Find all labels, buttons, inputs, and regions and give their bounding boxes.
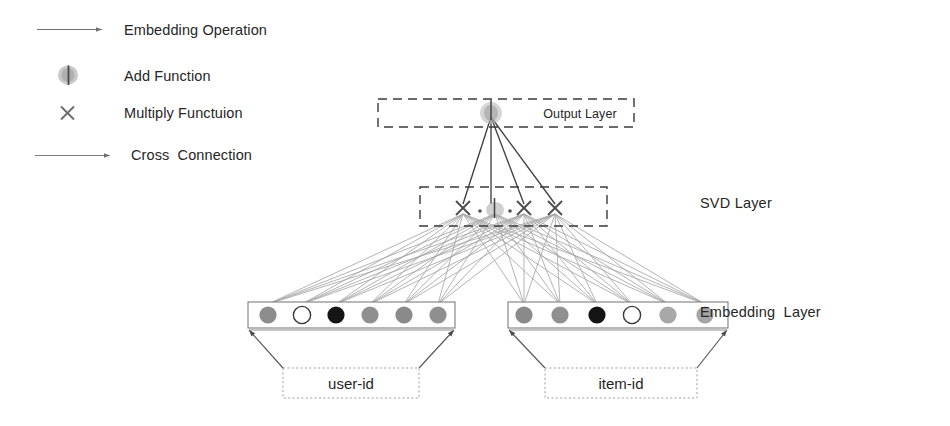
item-id-label: item-id	[598, 375, 643, 392]
user-embedding-box	[248, 302, 455, 328]
user-id-label: user-id	[328, 375, 374, 392]
legend-label-embedding-operation: Embedding Operation	[124, 22, 267, 38]
output-layer-label: Output Layer	[543, 107, 616, 121]
item-embedding-box	[508, 302, 728, 328]
svd-node-add	[486, 198, 504, 218]
embedding-circle	[361, 306, 378, 323]
embedding-group-item: item-id	[508, 302, 728, 398]
embedding-circle	[551, 306, 568, 323]
embedding-circle	[623, 306, 640, 323]
svd-layer-name-label: SVD Layer	[700, 195, 772, 211]
add-node-icon	[58, 66, 78, 86]
svd-ellipsis-dot-1	[478, 209, 482, 213]
embedding-circle	[327, 306, 344, 323]
svd-ellipsis-dot-2	[508, 209, 512, 213]
embedding-circle	[395, 306, 412, 323]
legend-item-multiply-function	[61, 107, 74, 120]
multiply-x-icon	[61, 107, 74, 120]
diagram-canvas: Output Layer	[0, 0, 950, 426]
legend-label-add-function: Add Function	[124, 68, 211, 84]
embedding-layer-name-label: Embedding Layer	[700, 304, 821, 320]
embedding-circle	[293, 306, 310, 323]
embedding-circle	[659, 306, 676, 323]
cross-connections-group	[268, 214, 705, 304]
legend-label-cross-connection: Cross Connection	[131, 147, 252, 163]
item-trapezoid-left	[509, 330, 545, 368]
legend	[35, 30, 110, 156]
svd-to-output-connections	[463, 117, 555, 204]
output-add-node	[480, 100, 502, 124]
output-layer: Output Layer	[378, 99, 634, 127]
embedding-circle	[259, 306, 276, 323]
user-trapezoid-left	[249, 330, 283, 368]
embedding-circle	[429, 306, 446, 323]
legend-label-multiply-function: Multiply Functuion	[124, 105, 243, 121]
embedding-group-user: user-id	[248, 302, 455, 398]
embedding-circle	[515, 306, 532, 323]
user-trapezoid-right	[419, 330, 454, 368]
legend-item-add-function	[58, 66, 78, 86]
item-trapezoid-right	[697, 330, 727, 368]
embedding-circle	[588, 306, 605, 323]
